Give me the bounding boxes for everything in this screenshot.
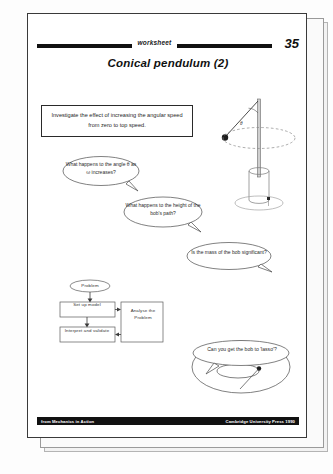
conical-pendulum-diagram bbox=[222, 99, 295, 210]
bubble-text-lasso-question: Can you get the bob to 'lasso'? bbox=[196, 345, 288, 353]
worksheet-artwork bbox=[28, 14, 307, 438]
footer-source: from Mechanics in Action bbox=[41, 419, 94, 424]
flow-label-analyse-problem: Analyse the Problem bbox=[123, 308, 163, 321]
worksheet-scene: worksheet 35 Conical pendulum (2) Invest… bbox=[0, 0, 333, 474]
diagram-angle-label: θ bbox=[240, 121, 243, 126]
page-footer: from Mechanics in Action Cambridge Unive… bbox=[37, 417, 299, 425]
flow-label-problem: Problem bbox=[68, 283, 112, 290]
flow-label-set-up-model: Set up model bbox=[58, 302, 116, 309]
worksheet-page: worksheet 35 Conical pendulum (2) Invest… bbox=[27, 13, 307, 438]
bubble-text-mass-question: Is the mass of the bob significant? bbox=[188, 248, 270, 256]
footer-publisher: Cambridge University Press 1990 bbox=[226, 419, 295, 424]
bubble-text-angle-question: What happens to the angle θ as ω increas… bbox=[64, 160, 138, 177]
flow-label-interpret-validate: Interpret and validate bbox=[58, 328, 116, 335]
bubble-text-height-question: What happens to the height of the bob's … bbox=[124, 201, 202, 218]
speech-bubble-mass-question bbox=[187, 243, 272, 273]
